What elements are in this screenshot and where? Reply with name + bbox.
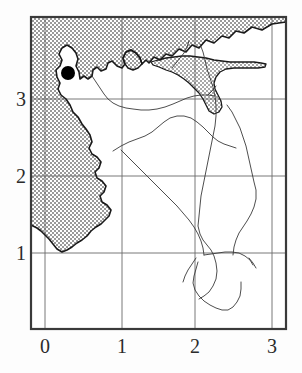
map-figure: 0 1 2 3 3 2 1 — [0, 0, 302, 373]
y-tick-label-3: 3 — [6, 89, 26, 109]
x-tick-label-1: 1 — [110, 336, 134, 356]
site-marker[interactable] — [61, 66, 75, 80]
x-tick-label-0: 0 — [33, 336, 57, 356]
map-canvas — [0, 0, 302, 373]
x-tick-label-3: 3 — [260, 336, 284, 356]
y-tick-label-2: 2 — [6, 166, 26, 186]
y-tick-label-1: 1 — [6, 243, 26, 263]
x-tick-label-2: 2 — [183, 336, 207, 356]
